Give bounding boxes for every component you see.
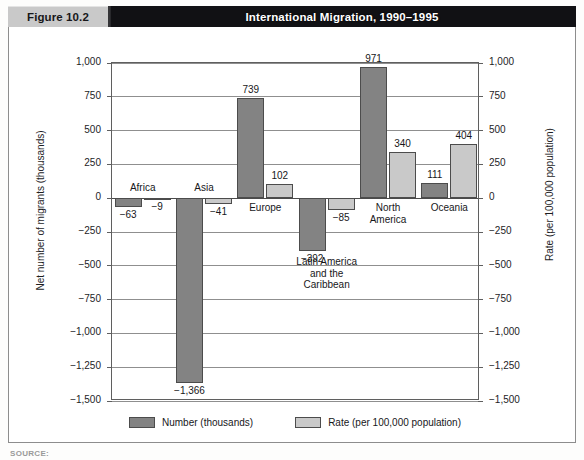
left-axis-tick-label: 500 [84, 125, 101, 135]
right-axis-tick-label: 0 [489, 192, 495, 202]
legend-label: Rate (per 100,000 population) [328, 417, 461, 428]
right-axis-tick [478, 299, 483, 300]
category-label-line: America [337, 214, 438, 226]
gridline [112, 299, 478, 300]
figure-number-box: Figure 10.2 [8, 6, 108, 27]
left-axis-tick-label: −500 [78, 260, 101, 270]
legend-item: Rate (per 100,000 population) [295, 417, 461, 428]
gridline [112, 164, 478, 165]
left-axis-tick-label: −250 [78, 226, 101, 236]
bar-number [176, 198, 203, 383]
left-axis-tick-label: 0 [95, 192, 101, 202]
bar-number [360, 67, 387, 198]
left-axis-tick [107, 63, 112, 64]
right-axis-tick-label: −750 [489, 294, 512, 304]
figure-number-label: Figure 10.2 [27, 11, 89, 23]
right-axis-tick-label: 250 [489, 158, 506, 168]
gridline [112, 367, 478, 368]
category-label-line: and the [276, 268, 377, 280]
right-axis-tick [478, 164, 483, 165]
right-axis-tick-label: −1,500 [489, 395, 520, 405]
right-axis-tick-label: 750 [489, 91, 506, 101]
right-axis-tick-label: −500 [489, 260, 512, 270]
plot-area: −63−9−1,366−41739102−392−85971340111404 … [111, 62, 479, 400]
bar-number [421, 183, 448, 198]
left-axis-tick-label: −1,250 [70, 361, 101, 371]
gridline [112, 130, 478, 131]
chart-legend: Number (thousands)Rate (per 100,000 popu… [111, 412, 479, 432]
category-label-latin-america-and-the-caribbean: Latin Americaand theCaribbean [276, 256, 377, 291]
left-axis-tick-label: 1,000 [76, 57, 101, 67]
left-axis-tick [107, 367, 112, 368]
right-axis-tick-label: 500 [489, 125, 506, 135]
left-axis-tick [107, 96, 112, 97]
left-axis-tick [107, 333, 112, 334]
legend-label: Number (thousands) [162, 417, 253, 428]
category-label-line: Latin America [276, 256, 377, 268]
right-axis-tick-label: −1,000 [489, 327, 520, 337]
left-axis-tick-label: −750 [78, 294, 101, 304]
bar-value-label: 111 [409, 170, 460, 180]
category-label-line: Europe [215, 202, 316, 214]
category-label-line: Oceania [399, 202, 500, 214]
right-axis-tick [478, 265, 483, 266]
right-axis-tick [478, 367, 483, 368]
bar-value-label: −1,366 [164, 386, 215, 396]
left-axis-tick [107, 265, 112, 266]
right-axis-tick [478, 333, 483, 334]
bar-value-label: 739 [225, 85, 276, 95]
figure-container: Figure 10.2 International Migration, 199… [0, 0, 584, 460]
left-axis-tick [107, 198, 112, 199]
category-label-europe: Europe [215, 202, 316, 214]
left-axis-tick [107, 164, 112, 165]
figure-header: Figure 10.2 International Migration, 199… [8, 6, 576, 27]
category-label-oceania: Oceania [399, 202, 500, 214]
left-axis-tick-label: −1,500 [70, 395, 101, 405]
legend-swatch-number [129, 417, 155, 428]
figure-title-bar: International Migration, 1990–1995 [108, 6, 576, 27]
right-axis-tick [478, 198, 483, 199]
left-axis-tick [107, 232, 112, 233]
left-axis-title: Net number of migrants (thousands) [35, 126, 46, 296]
gridline [112, 63, 478, 64]
right-axis-tick-label: 1,000 [489, 57, 514, 67]
category-label-line: Asia [153, 182, 254, 194]
gridline [112, 401, 478, 402]
bar-rate [266, 184, 293, 198]
right-axis-tick [478, 232, 483, 233]
legend-swatch-rate [295, 417, 321, 428]
left-axis-tick-label: −1,000 [70, 327, 101, 337]
right-axis-tick-label: −1,250 [489, 361, 520, 371]
source-note: SOURCE: [10, 449, 49, 460]
category-label-line: Caribbean [276, 279, 377, 291]
right-axis-tick-label: −250 [489, 226, 512, 236]
right-axis-tick [478, 63, 483, 64]
left-axis-tick [107, 299, 112, 300]
legend-item: Number (thousands) [129, 417, 253, 428]
left-axis-tick-label: 750 [84, 91, 101, 101]
left-axis-tick [107, 401, 112, 402]
bar-value-label: −9 [132, 202, 183, 212]
figure-title: International Migration, 1990–1995 [246, 11, 439, 23]
bar-value-label: 102 [254, 171, 305, 181]
gridline [112, 96, 478, 97]
bar-value-label: 340 [377, 139, 428, 149]
bar-rate [144, 198, 171, 200]
right-axis-tick [478, 401, 483, 402]
category-label-asia: Asia [153, 182, 254, 194]
right-axis-title: Rate (per 100,000 population) [544, 95, 555, 295]
bar-value-label: 971 [348, 54, 399, 64]
left-axis-tick [107, 130, 112, 131]
right-axis-tick [478, 96, 483, 97]
gridline [112, 232, 478, 233]
bar-value-label: 404 [438, 131, 489, 141]
gridline [112, 333, 478, 334]
figure-frame: Net number of migrants (thousands) Rate … [8, 27, 576, 443]
left-axis-tick-label: 250 [84, 158, 101, 168]
